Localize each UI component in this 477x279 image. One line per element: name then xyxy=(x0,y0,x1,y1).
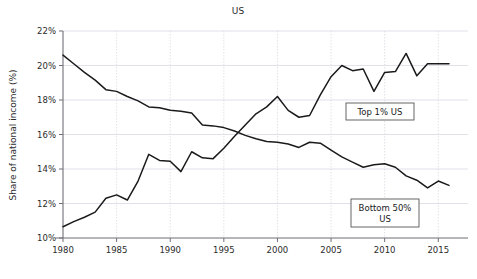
bottom-50-percent-label-line2: US xyxy=(379,214,391,224)
x-tick-label: 1990 xyxy=(159,245,181,255)
line-chart: US Share of national income (%) 10%12%14… xyxy=(0,0,477,279)
y-tick-label: 14% xyxy=(37,164,56,174)
x-tick-label: 1980 xyxy=(52,245,74,255)
y-tick-label: 20% xyxy=(37,61,56,71)
x-tick-label: 2010 xyxy=(374,245,396,255)
x-tick-label: 2005 xyxy=(320,245,342,255)
top-1-percent-label-text: Top 1% US xyxy=(357,107,403,117)
bottom-50-percent-label-line1: Bottom 50% xyxy=(359,203,412,213)
x-tick-label: 1995 xyxy=(213,245,235,255)
x-tick-label: 1985 xyxy=(106,245,128,255)
chart-container: US Share of national income (%) 10%12%14… xyxy=(0,0,477,279)
x-tick-label: 2015 xyxy=(427,245,449,255)
x-tick-label: 2000 xyxy=(267,245,289,255)
chart-background xyxy=(0,0,477,279)
y-tick-label: 22% xyxy=(37,26,56,36)
y-axis-title: Share of national income (%) xyxy=(8,69,18,200)
y-tick-label: 10% xyxy=(37,233,56,243)
y-tick-label: 12% xyxy=(37,199,56,209)
chart-title: US xyxy=(232,6,245,16)
y-tick-label: 18% xyxy=(37,95,56,105)
y-tick-label: 16% xyxy=(37,130,56,140)
